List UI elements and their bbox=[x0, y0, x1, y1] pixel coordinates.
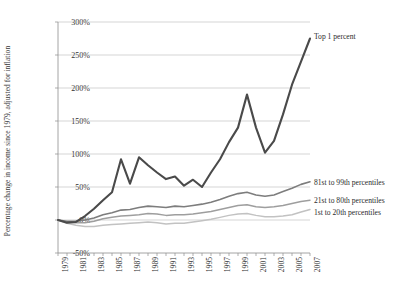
series-canvas bbox=[58, 22, 310, 253]
x-tick-label: 1993 bbox=[187, 257, 196, 282]
series-label-21st-to-80th-percentiles: 21st to 80th percentiles bbox=[314, 196, 385, 205]
series-label-top-1-percent: Top 1 percent bbox=[314, 32, 356, 41]
x-tick-label: 2003 bbox=[277, 257, 286, 282]
chart-container: Percentage change in income since 1979, … bbox=[0, 0, 404, 282]
series-line bbox=[58, 200, 310, 222]
x-tick-label: 1999 bbox=[241, 257, 250, 282]
series-label-1st-to-20th-percentiles: 1st to 20th percentiles bbox=[314, 208, 381, 217]
x-tick-label: 1987 bbox=[133, 257, 142, 282]
x-tick-label: 1983 bbox=[97, 257, 106, 282]
x-tick-label: 1991 bbox=[169, 257, 178, 282]
x-tick-label: 1989 bbox=[151, 257, 160, 282]
series-label-81st-to-99th-percentiles: 81st to 99th percentiles bbox=[314, 178, 385, 187]
x-tick-label: 1995 bbox=[205, 257, 214, 282]
plot-area bbox=[58, 22, 310, 253]
y-axis-title: Percentage change in income since 1979, … bbox=[0, 0, 14, 282]
x-tick-label: 2001 bbox=[259, 257, 268, 282]
x-tick-label: 1979 bbox=[61, 257, 70, 282]
x-tick-label: 2005 bbox=[295, 257, 304, 282]
x-tick-label: 1981 bbox=[79, 257, 88, 282]
x-tick-label: 2007 bbox=[313, 257, 322, 282]
x-tick-label: 1985 bbox=[115, 257, 124, 282]
x-tick-label: 1997 bbox=[223, 257, 232, 282]
